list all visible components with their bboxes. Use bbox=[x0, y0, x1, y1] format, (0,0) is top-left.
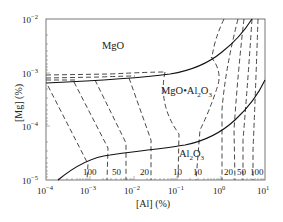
iso-label-100-right: 100 bbox=[250, 167, 264, 177]
x-tick-base: 10 bbox=[80, 186, 89, 196]
x-tick-base: 10 bbox=[124, 186, 133, 196]
iso-label-10-left: 10 bbox=[173, 167, 182, 177]
x-tick-1e-1: 10−1 bbox=[168, 184, 184, 196]
x-tick-exp: −2 bbox=[133, 184, 140, 191]
y-minor-ticks bbox=[46, 35, 50, 177]
x-tick-1e-3: 10−3 bbox=[80, 184, 96, 196]
x-tick-base: 10 bbox=[213, 186, 222, 196]
iso-label-50-left: 50 bbox=[112, 167, 121, 177]
iso-label-10-right: 10 bbox=[193, 167, 202, 177]
region-sub: 3 bbox=[208, 91, 212, 99]
iso-label-50-right: 50 bbox=[237, 167, 246, 177]
y-tick-exp: −3 bbox=[31, 67, 38, 74]
y-tick-1e-3: 10−3 bbox=[22, 67, 38, 79]
y-axis-label: [Mg] (%) bbox=[13, 84, 24, 122]
x-tick-base: 10 bbox=[257, 186, 266, 196]
x-tick-exp: −3 bbox=[89, 184, 96, 191]
region-text: MgO•Al bbox=[161, 85, 197, 96]
y-tick-base: 10 bbox=[22, 176, 31, 186]
iso-label-100-left: 100 bbox=[83, 167, 97, 177]
y-tick-base: 10 bbox=[22, 122, 31, 132]
boundary-mgo-spinel bbox=[46, 19, 252, 83]
x-tick-1e-4: 10−4 bbox=[37, 184, 53, 196]
x-tick-1e-2: 10−2 bbox=[124, 184, 140, 196]
y-tick-base: 10 bbox=[22, 15, 31, 25]
region-label-alumina: Al2O3 bbox=[179, 148, 204, 162]
y-tick-exp: −5 bbox=[31, 174, 38, 181]
x-tick-1e1: 101 bbox=[257, 184, 269, 196]
region-text: Al bbox=[179, 148, 190, 159]
region-label-spinel: MgO•Al2O3 bbox=[161, 85, 212, 99]
x-tick-1e0: 100 bbox=[213, 184, 225, 196]
y-tick-base: 10 bbox=[22, 69, 31, 79]
x-tick-base: 10 bbox=[168, 186, 177, 196]
x-axis-label: [Al] (%) bbox=[136, 198, 170, 209]
y-tick-1e-2: 10−2 bbox=[22, 13, 38, 25]
region-text: O bbox=[193, 148, 201, 159]
x-tick-base: 10 bbox=[37, 186, 46, 196]
x-tick-exp: 1 bbox=[266, 184, 269, 191]
x-tick-exp: −4 bbox=[46, 184, 53, 191]
x-tick-exp: −1 bbox=[177, 184, 184, 191]
iso-oxygen-lines bbox=[46, 19, 258, 180]
x-tick-exp: 0 bbox=[222, 184, 225, 191]
y-tick-exp: −4 bbox=[31, 120, 38, 127]
iso-label-20-left: 20 bbox=[140, 167, 149, 177]
y-tick-1e-5: 10−5 bbox=[22, 174, 38, 186]
y-tick-exp: −2 bbox=[31, 13, 38, 20]
y-tick-1e-4: 10−4 bbox=[22, 120, 38, 132]
iso-label-20-right: 20 bbox=[224, 167, 233, 177]
region-sub: 3 bbox=[201, 154, 205, 162]
region-label-mgo: MgO bbox=[102, 40, 124, 51]
